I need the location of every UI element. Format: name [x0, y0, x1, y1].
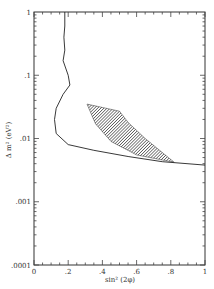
- chart: .0001.001.01.11 0.2.4.6.81 sin² (2φ) Δ m…: [0, 0, 214, 289]
- x-tick-label: .4: [99, 268, 106, 276]
- y-tick-label: .1: [24, 72, 31, 80]
- y-tick-label: .0001: [11, 262, 31, 270]
- y-axis-label: Δ m² (eV²): [5, 122, 13, 159]
- y-tick-label: .001: [15, 198, 31, 206]
- y-tick-label: .01: [20, 135, 31, 143]
- x-tick-label: .2: [65, 268, 72, 276]
- x-tick-labels: 0.2.4.6.81: [32, 268, 207, 276]
- x-tick-label: .6: [133, 268, 140, 276]
- x-tick-label: 1: [203, 268, 207, 276]
- y-tick-label: 1: [27, 9, 31, 17]
- hatched-allowed-region: [87, 104, 174, 162]
- x-tick-label: .8: [167, 268, 174, 276]
- x-tick-label: 0: [32, 268, 36, 276]
- y-tick-labels: .0001.001.01.11: [11, 9, 31, 270]
- x-axis-label: sin² (2φ): [105, 276, 135, 284]
